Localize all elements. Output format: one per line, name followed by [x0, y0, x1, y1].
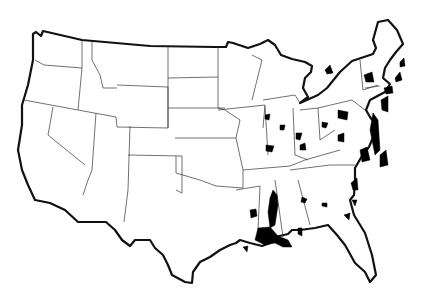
region-boston: [395, 72, 402, 82]
region-nyc: [384, 86, 393, 94]
region-east-texas: [243, 246, 248, 252]
region-louisiana-coast: [255, 227, 292, 247]
region-ohio-west: [296, 133, 302, 140]
region-nj-delaware: [381, 96, 388, 112]
us-outline: [18, 20, 403, 283]
region-nc-coast: [380, 150, 388, 167]
region-ga-sc-coast: [351, 178, 358, 190]
region-ga-coast: [344, 213, 350, 220]
us-map: [0, 0, 441, 297]
region-sc-coast2: [352, 200, 357, 206]
region-maine-coast: [400, 58, 405, 67]
region-indiana-south: [300, 143, 306, 150]
region-central-alabama: [301, 197, 307, 203]
region-w-pennsylvania: [338, 110, 348, 120]
region-mobile-bay: [298, 228, 302, 236]
region-michigan-se: [325, 65, 333, 74]
region-missouri: [266, 145, 274, 152]
region-upstate-ny: [364, 72, 374, 82]
region-iowa-illinois: [265, 114, 270, 120]
region-west-virginia: [338, 133, 344, 142]
region-west-georgia: [322, 203, 327, 207]
region-lower-mississippi: [268, 190, 278, 228]
region-arkansas: [250, 209, 257, 218]
region-indiana: [280, 125, 285, 130]
highlighted-regions: [243, 58, 405, 252]
region-ohio-center: [322, 122, 328, 128]
